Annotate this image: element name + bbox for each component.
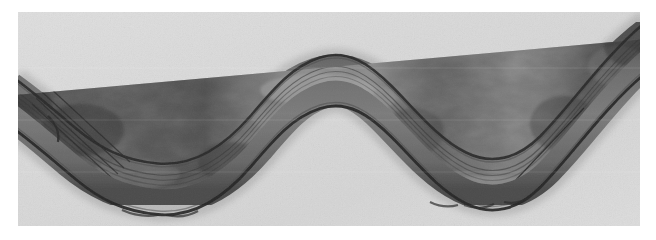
film-grain-overlay (18, 12, 640, 226)
micrograph-image (18, 12, 640, 226)
figure-root: wavy ribbon-like specimen (0, 0, 656, 240)
micrograph-plate (18, 12, 640, 226)
